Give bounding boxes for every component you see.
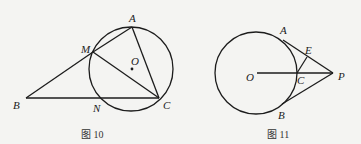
figure-10: A M O B N C 图 10 <box>13 12 173 140</box>
label-o: O <box>246 71 254 83</box>
segment-mc <box>93 52 159 98</box>
label-m: M <box>80 43 91 55</box>
figure-11: A E O C P B 图 11 <box>215 24 345 140</box>
geometry-figures: A M O B N C 图 10 A E O C P B 图 11 <box>0 0 361 144</box>
label-a: A <box>128 12 136 24</box>
label-a: A <box>279 24 287 36</box>
label-c: C <box>297 74 305 86</box>
label-p: P <box>337 70 345 82</box>
label-b: B <box>278 109 285 121</box>
caption-figure-11: 图 11 <box>267 129 289 140</box>
segment-ce <box>297 57 307 73</box>
label-n: N <box>92 102 101 114</box>
label-o: O <box>131 55 139 67</box>
caption-figure-10: 图 10 <box>81 129 104 140</box>
center-dot <box>131 68 134 71</box>
label-b: B <box>13 99 20 111</box>
segment-bp <box>282 73 333 104</box>
label-c: C <box>163 99 171 111</box>
label-e: E <box>304 44 312 56</box>
segment-bm <box>26 52 93 98</box>
